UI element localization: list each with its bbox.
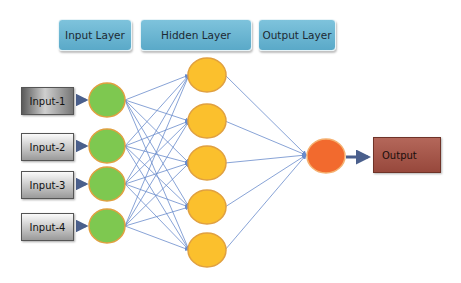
input-nodes — [89, 83, 125, 243]
input-hidden-connections — [125, 75, 189, 250]
input-box-1: Input-1 — [21, 87, 74, 115]
hidden-nodes — [188, 58, 226, 267]
input-box-4: Input-4 — [21, 213, 74, 241]
input-box-2: Input-2 — [21, 133, 74, 161]
hidden-output-connections — [225, 75, 306, 250]
input-box-3: Input-3 — [21, 171, 74, 199]
output-box: Output — [373, 137, 441, 173]
output-node — [307, 139, 345, 173]
input-arrows — [78, 100, 86, 226]
